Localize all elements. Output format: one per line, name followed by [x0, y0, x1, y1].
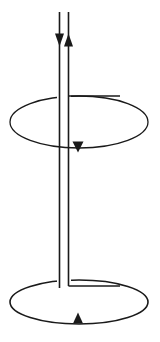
upper-loop-circulation-arrow-icon — [73, 142, 84, 153]
right-wire-up-arrow-icon — [64, 34, 73, 47]
upper-loop-ellipse — [10, 96, 148, 148]
lower-loop-circulation-arrow-icon — [73, 313, 83, 324]
diagram-canvas: Two-wire vertical conductor threading tw… — [0, 0, 160, 342]
physics-diagram-svg — [0, 0, 160, 342]
left-wire-down-arrow-icon — [55, 34, 64, 47]
